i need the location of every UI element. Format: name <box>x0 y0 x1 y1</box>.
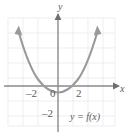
x-tick-label-pos2: 2 <box>76 88 82 99</box>
y-tick-label-neg2: –2 <box>42 108 53 119</box>
x-axis <box>4 83 120 90</box>
x-axis-arrowhead <box>113 83 120 90</box>
graph-figure: –2 0 2 –2 y x y = f(x) <box>0 0 132 135</box>
x-tick-label-zero: 0 <box>50 88 56 99</box>
y-axis <box>55 13 62 132</box>
x-axis-label: x <box>120 84 124 94</box>
curve-left-arrowhead <box>15 26 23 36</box>
function-curve-label: y = f(x) <box>70 112 100 122</box>
curve-right-arrowhead <box>94 26 102 36</box>
y-axis-label: y <box>58 2 62 12</box>
coordinate-plane-svg <box>0 0 132 135</box>
y-axis-arrowhead <box>55 13 62 20</box>
x-tick-label-neg2: –2 <box>26 88 37 99</box>
